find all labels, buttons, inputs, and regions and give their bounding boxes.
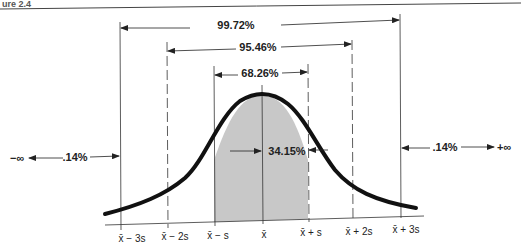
tick-minus-2s: x̄ − 2s xyxy=(162,231,189,242)
bracket-68-26: 68.26% xyxy=(215,67,307,79)
right-tail-label: .14% xyxy=(432,141,457,153)
bracket-99-72: 99.72% xyxy=(121,19,399,31)
bracket-95-46: 95.46% xyxy=(168,41,351,53)
axis-tick-labels: x̄ − 3s x̄ − 2s x̄ − s x̄ x̄ + s x̄ + 2s… xyxy=(119,224,420,244)
bracket-68-26-label: 68.26% xyxy=(241,67,279,79)
left-tail: −∞ .14% xyxy=(10,151,119,164)
bracket-95-46-label: 95.46% xyxy=(239,41,277,53)
line-plus-1s xyxy=(308,64,309,222)
line-plus-3s xyxy=(400,14,401,218)
header-rule xyxy=(0,3,521,9)
tick-plus-2s: x̄ + 2s xyxy=(346,226,373,237)
tick-plus-1s: x̄ + s xyxy=(300,227,321,238)
line-plus-2s xyxy=(352,40,353,220)
line-minus-2s xyxy=(167,42,168,228)
pos-infinity: +∞ xyxy=(497,141,511,153)
header-fragment: ure 2.4 xyxy=(2,0,31,9)
inner-label: 34.15% xyxy=(268,145,306,157)
tick-minus-1s: x̄ − s xyxy=(207,230,228,241)
tick-mean: x̄ xyxy=(262,229,267,240)
bracket-99-72-label: 99.72% xyxy=(217,19,255,31)
right-tail: .14% +∞ xyxy=(402,141,511,153)
left-tail-label: .14% xyxy=(62,151,87,163)
neg-infinity: −∞ xyxy=(10,152,24,164)
normal-distribution-diagram: ure 2.4 99.72% 95.46% 68.26% 34.15% xyxy=(0,0,521,249)
tick-plus-3s: x̄ + 3s xyxy=(393,224,420,235)
tick-minus-3s: x̄ − 3s xyxy=(119,233,146,244)
line-minus-3s xyxy=(120,22,121,230)
